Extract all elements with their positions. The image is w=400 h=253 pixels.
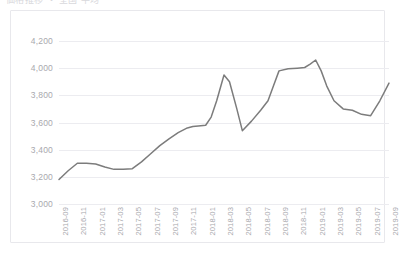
x-axis-tick-label: 2016-11 [80, 207, 88, 235]
y-axis-tick-label: 3,000 [31, 199, 53, 209]
x-axis-tick-label: 2018-05 [245, 207, 253, 236]
x-axis-tick-label: 2017-07 [154, 207, 162, 236]
x-axis-tick-label: 2018-03 [227, 207, 235, 236]
chart-frame: 4,2004,0003,8003,6003,4003,2003,000 2016… [10, 10, 385, 243]
x-axis-tick-label: 2018-11 [300, 207, 308, 235]
x-axis-tick-label: 2018-07 [264, 207, 272, 236]
x-axis-labels: 2016-092016-112017-012017-032017-052017-… [59, 207, 389, 253]
x-axis-tick-label: 2019-05 [355, 207, 363, 236]
x-axis-tick-label: 2019-01 [319, 207, 327, 236]
x-axis-tick-label: 2019-09 [392, 207, 400, 236]
x-axis-tick-label: 2019-03 [337, 207, 345, 236]
x-axis-tick-label: 2017-09 [172, 207, 180, 236]
x-axis-tick-label: 2016-09 [62, 207, 70, 236]
x-axis-tick-label: 2017-05 [135, 207, 143, 236]
y-axis-tick-label: 3,400 [31, 145, 53, 155]
clipped-chart-title: 価格推移 ・ 全国 平均 [6, 0, 99, 4]
gridline: 3,000 [59, 204, 389, 205]
y-axis-tick-label: 3,200 [31, 172, 53, 182]
y-axis-tick-label: 4,200 [31, 36, 53, 46]
x-axis-tick-label: 2018-01 [209, 207, 217, 236]
x-axis-tick-label: 2018-09 [282, 207, 290, 236]
line-series-path [59, 60, 389, 180]
x-axis-tick-label: 2019-07 [374, 207, 382, 236]
y-axis-tick-label: 4,000 [31, 63, 53, 73]
x-axis-tick-label: 2017-01 [99, 207, 107, 236]
x-axis-tick-label: 2017-03 [117, 207, 125, 236]
x-axis-tick-label: 2017-11 [190, 207, 198, 235]
line-series-svg [59, 41, 389, 204]
plot-area: 4,2004,0003,8003,6003,4003,2003,000 [59, 41, 389, 204]
y-axis-tick-label: 3,600 [31, 118, 53, 128]
y-axis-tick-label: 3,800 [31, 90, 53, 100]
